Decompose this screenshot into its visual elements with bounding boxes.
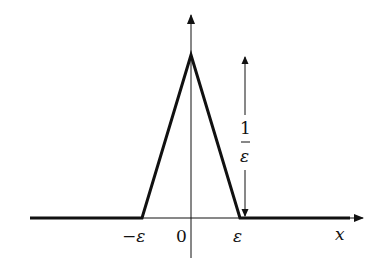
height-numerator: 1 xyxy=(240,120,251,137)
neg-eps-label: −ε xyxy=(122,228,145,245)
height-denominator: ε xyxy=(240,148,249,165)
diagram-graphics xyxy=(0,0,384,272)
origin-label: 0 xyxy=(176,228,187,245)
x-axis-label: x xyxy=(335,226,345,243)
triangle-pulse-diagram: 1 ε −ε 0 ε x xyxy=(0,0,384,272)
eps-label: ε xyxy=(233,228,242,245)
triangle-pulse-curve xyxy=(30,55,350,218)
